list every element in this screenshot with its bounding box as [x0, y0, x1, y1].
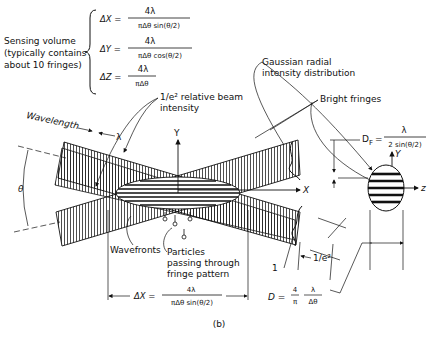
svg-text:4λ: 4λ [145, 36, 155, 46]
svg-text:ΔX =: ΔX = [99, 14, 121, 24]
svg-text:πΔθ cos(θ/2): πΔθ cos(θ/2) [138, 52, 182, 60]
svg-text:(typically contains: (typically contains [4, 48, 87, 58]
theta-arc [23, 150, 28, 226]
beam-intensity-label: 1/e² relative beam intensity [160, 92, 243, 113]
svg-text:πΔθ sin(θ/2): πΔθ sin(θ/2) [138, 22, 180, 30]
one-e2-label: 1/e² [313, 253, 331, 263]
one-label: 1 [272, 263, 278, 273]
svg-text:π: π [293, 298, 298, 306]
brace [85, 10, 96, 94]
svg-text:intensity: intensity [160, 103, 200, 113]
svg-text:1/e² relative beam: 1/e² relative beam [160, 92, 243, 102]
y-axis-right-label: Y [395, 149, 402, 159]
svg-text:λ: λ [311, 286, 315, 294]
d-dim [328, 218, 346, 238]
fringe-spacing-equation: D F = λ 2 sin(θ/2) [362, 125, 426, 149]
svg-text:Sensing volume: Sensing volume [4, 36, 76, 46]
svg-text:ΔZ =: ΔZ = [99, 72, 121, 82]
wl-arrow-right [99, 133, 115, 136]
intensity-leader-1 [124, 98, 158, 152]
svg-text:πΔθ: πΔθ [135, 80, 148, 88]
svg-text:Δθ: Δθ [308, 298, 317, 306]
figure-caption: (b) [213, 319, 226, 329]
theta-label: θ [18, 184, 24, 194]
svg-text:about 10 fringes): about 10 fringes) [4, 60, 82, 70]
equation-dy: ΔY = 4λ πΔθ cos(θ/2) [99, 36, 192, 60]
beam-diameter-equation: D = 4 π λ Δθ [268, 286, 322, 306]
equation-dz: ΔZ = 4λ πΔθ [99, 64, 156, 88]
gaussian-label: Gaussian radial intensity distribution [262, 57, 355, 78]
bf-leader-2 [255, 100, 318, 138]
svg-text:πΔθ sin(θ/2): πΔθ sin(θ/2) [171, 299, 213, 307]
equation-dx: ΔX = 4λ πΔθ sin(θ/2) [99, 6, 190, 30]
wl-arrow-left [78, 128, 92, 131]
sensing-volume-label: Sensing volume (typically contains about… [4, 36, 87, 70]
particles-label: Particles passing through fringe pattern [167, 247, 240, 279]
wavelength-label: Wavelength [26, 110, 81, 131]
svg-text:F: F [369, 139, 373, 147]
bright-fringes-label: Bright fringes [320, 94, 382, 104]
svg-text:2 sin(θ/2): 2 sin(θ/2) [388, 141, 422, 149]
x-axis-label: X [302, 185, 310, 195]
svg-text:D =: D = [268, 292, 285, 302]
svg-text:Gaussian radial: Gaussian radial [262, 57, 332, 67]
y-axis-label: Y [173, 128, 180, 138]
svg-text:D: D [362, 134, 369, 144]
svg-text:Bright fringes: Bright fringes [320, 94, 382, 104]
z-axis-label: z [420, 183, 426, 193]
wavefronts-label: Wavefronts [110, 245, 161, 255]
svg-text:passing through: passing through [167, 258, 240, 268]
one-e2-arrow [301, 256, 311, 258]
svg-text:ΔY =: ΔY = [99, 44, 121, 54]
svg-text:4λ: 4λ [187, 286, 196, 294]
svg-text:=: = [375, 134, 383, 144]
svg-text:4λ: 4λ [145, 6, 155, 16]
bottom-dx-equation: ΔX = 4λ πΔθ sin(θ/2) [133, 286, 222, 307]
svg-text:Particles: Particles [167, 247, 205, 257]
theta-line-lower [14, 222, 60, 232]
svg-text:fringe pattern: fringe pattern [167, 269, 229, 279]
d-leader-2 [330, 243, 372, 293]
svg-text:4: 4 [293, 286, 298, 294]
ldv-fringe-diagram: Sensing volume (typically contains about… [0, 0, 439, 347]
svg-text:ΔX =: ΔX = [133, 291, 155, 301]
svg-text:λ: λ [401, 125, 406, 135]
lambda-label: λ [116, 132, 122, 142]
svg-text:4λ: 4λ [138, 64, 148, 74]
